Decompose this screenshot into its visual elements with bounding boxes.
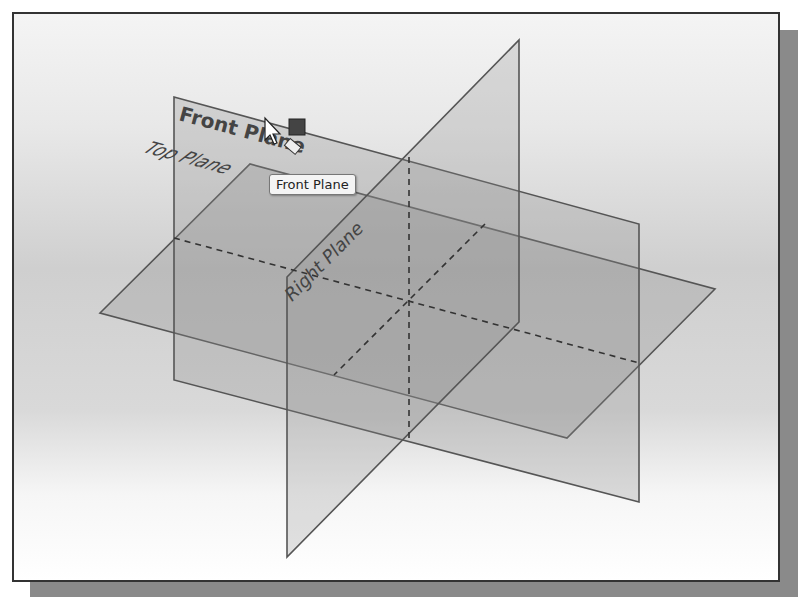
graphics-viewport[interactable]: Front Plane Top Plane Right Plane Front …: [12, 12, 780, 582]
tooltip: Front Plane: [269, 174, 356, 195]
planes-drawing: Front Plane Top Plane Right Plane: [14, 14, 778, 580]
right-plane[interactable]: [287, 40, 519, 557]
